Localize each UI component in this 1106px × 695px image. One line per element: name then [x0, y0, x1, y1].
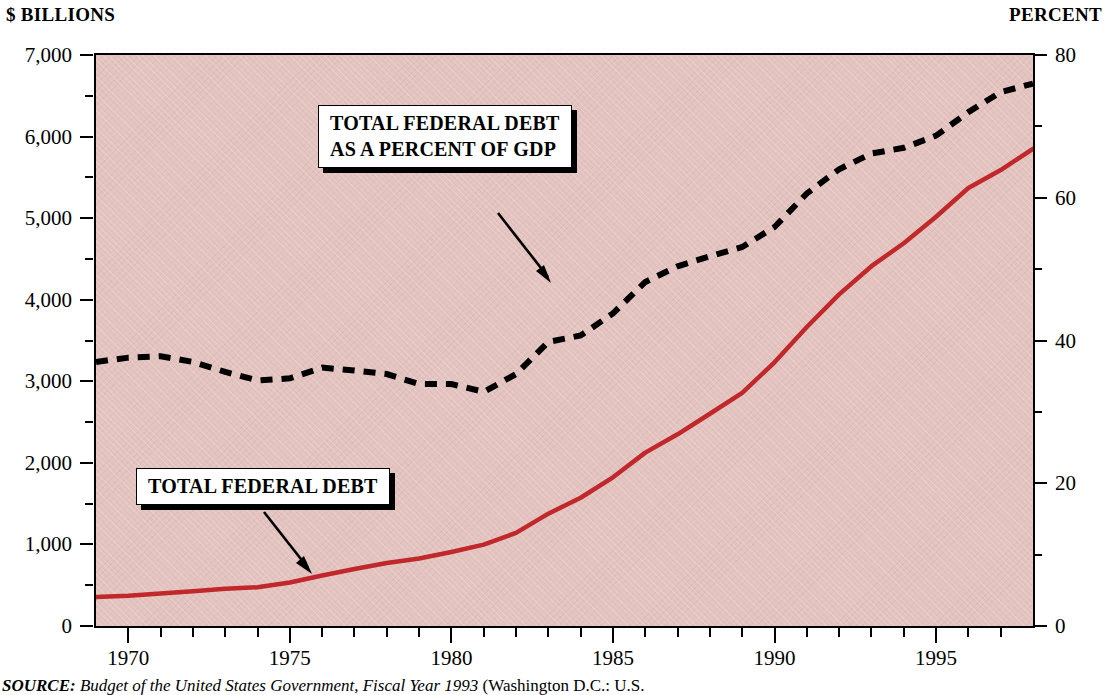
- x-tick-minor: [677, 627, 679, 637]
- x-tick-major: [127, 627, 129, 643]
- x-tick-major: [935, 627, 937, 643]
- callout-gdp-line1: TOTAL FEDERAL DEBT: [330, 110, 560, 136]
- callout-gdp-percent: TOTAL FEDERAL DEBT AS A PERCENT OF GDP: [318, 105, 572, 168]
- callout-debt-line1: TOTAL FEDERAL DEBT: [148, 473, 378, 499]
- x-tick-label: 1985: [592, 646, 634, 671]
- right-tick-minor: [1034, 411, 1042, 413]
- left-tick-major: [80, 543, 93, 545]
- x-tick-minor: [838, 627, 840, 637]
- debt-callout-arrow: [264, 512, 312, 574]
- right-axis-unit-label: PERCENT: [1009, 4, 1102, 26]
- left-tick-label: 1,000: [0, 532, 72, 557]
- x-tick-major: [450, 627, 452, 643]
- left-axis-unit-label: $ BILLIONS: [6, 4, 115, 26]
- left-tick-major: [80, 625, 93, 627]
- right-tick-major: [1034, 54, 1047, 56]
- x-tick-minor: [257, 627, 259, 637]
- x-tick-minor: [870, 627, 872, 637]
- left-tick-major: [80, 54, 93, 56]
- x-tick-minor: [741, 627, 743, 637]
- x-tick-minor: [709, 627, 711, 637]
- left-tick-major: [80, 462, 93, 464]
- left-tick-label: 5,000: [0, 206, 72, 231]
- left-tick-major: [80, 299, 93, 301]
- source-suffix: (Washington D.C.: U.S.: [483, 676, 645, 695]
- gdp-callout-arrow: [498, 213, 551, 283]
- right-tick-minor: [1034, 268, 1042, 270]
- right-tick-label: 0: [1055, 614, 1066, 639]
- x-tick-minor: [806, 627, 808, 637]
- x-tick-minor: [386, 627, 388, 637]
- source-title: Budget of the United States Government, …: [80, 676, 478, 695]
- left-tick-minor: [85, 421, 93, 423]
- x-tick-major: [774, 627, 776, 643]
- left-tick-minor: [85, 95, 93, 97]
- callout-total-federal-debt: TOTAL FEDERAL DEBT: [136, 468, 390, 505]
- right-tick-label: 80: [1055, 43, 1076, 68]
- left-tick-minor: [85, 503, 93, 505]
- x-tick-label: 1975: [269, 646, 311, 671]
- x-tick-minor: [224, 627, 226, 637]
- x-tick-label: 1970: [107, 646, 149, 671]
- x-tick-minor: [321, 627, 323, 637]
- left-tick-minor: [85, 258, 93, 260]
- left-tick-label: 7,000: [0, 43, 72, 68]
- left-tick-minor: [85, 340, 93, 342]
- left-tick-major: [80, 136, 93, 138]
- source-note: SOURCE: Budget of the United States Gove…: [2, 676, 645, 695]
- right-tick-label: 60: [1055, 185, 1076, 210]
- x-tick-minor: [160, 627, 162, 637]
- right-tick-major: [1034, 625, 1047, 627]
- source-prefix: SOURCE:: [2, 676, 76, 695]
- left-tick-minor: [85, 584, 93, 586]
- x-tick-label: 1995: [915, 646, 957, 671]
- x-tick-minor: [1000, 627, 1002, 637]
- x-tick-minor: [580, 627, 582, 637]
- x-tick-major: [289, 627, 291, 643]
- x-tick-minor: [483, 627, 485, 637]
- right-tick-major: [1034, 340, 1047, 342]
- x-tick-minor: [967, 627, 969, 637]
- callout-gdp-line2: AS A PERCENT OF GDP: [330, 136, 560, 162]
- left-tick-minor: [85, 176, 93, 178]
- right-tick-minor: [1034, 125, 1042, 127]
- x-tick-label: 1990: [754, 646, 796, 671]
- left-tick-label: 0: [0, 614, 72, 639]
- right-tick-major: [1034, 482, 1047, 484]
- right-tick-minor: [1034, 554, 1042, 556]
- right-tick-label: 20: [1055, 471, 1076, 496]
- x-tick-minor: [903, 627, 905, 637]
- right-tick-major: [1034, 197, 1047, 199]
- right-tick-label: 40: [1055, 328, 1076, 353]
- x-tick-minor: [547, 627, 549, 637]
- x-tick-minor: [644, 627, 646, 637]
- x-tick-label: 1980: [430, 646, 472, 671]
- chart-figure: $ BILLIONS PERCENT 01,0002,0003,0004,000…: [0, 0, 1106, 695]
- left-tick-label: 6,000: [0, 124, 72, 149]
- left-tick-label: 4,000: [0, 287, 72, 312]
- x-tick-minor: [192, 627, 194, 637]
- x-tick-minor: [515, 627, 517, 637]
- left-tick-major: [80, 380, 93, 382]
- left-tick-major: [80, 217, 93, 219]
- left-tick-label: 2,000: [0, 450, 72, 475]
- left-tick-label: 3,000: [0, 369, 72, 394]
- x-tick-minor: [353, 627, 355, 637]
- x-tick-major: [612, 627, 614, 643]
- x-tick-minor: [418, 627, 420, 637]
